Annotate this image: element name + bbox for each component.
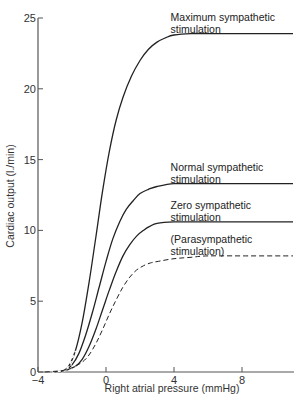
y-tick-label: 25 bbox=[24, 12, 36, 24]
curve-label-maximum-sympathetic-stimulation: stimulation bbox=[171, 23, 221, 35]
cardiac-output-chart: 0510152025−4048 Maximum sympatheticstimu… bbox=[0, 0, 304, 408]
y-tick-label: 20 bbox=[24, 83, 36, 95]
axes: 0510152025−4048 bbox=[24, 12, 294, 386]
curves bbox=[45, 33, 293, 372]
curve-label-maximum-sympathetic-stimulation: Maximum sympathetic bbox=[171, 11, 275, 23]
y-tick-label: 10 bbox=[24, 224, 36, 236]
curve-label-normal-sympathetic-stimulation: Normal sympathetic bbox=[171, 161, 264, 173]
x-tick-label: −4 bbox=[32, 374, 45, 386]
curve-label-normal-sympathetic-stimulation: stimulation bbox=[171, 173, 221, 185]
curve-labels: Maximum sympatheticstimulationNormal sym… bbox=[171, 11, 275, 257]
curve-parasympathetic-stimulation bbox=[45, 256, 293, 372]
curve-label-zero-sympathetic-stimulation: stimulation bbox=[171, 211, 221, 223]
y-tick-label: 5 bbox=[30, 295, 36, 307]
x-tick-label: 8 bbox=[239, 374, 245, 386]
curve-label-zero-sympathetic-stimulation: Zero sympathetic bbox=[171, 199, 252, 211]
curve-label-parasympathetic-stimulation: (Parasympathetic bbox=[171, 233, 253, 245]
y-axis-title: Cardiac output (l./min) bbox=[4, 144, 16, 247]
curve-label-parasympathetic-stimulation: stimulation) bbox=[171, 245, 225, 257]
x-axis-title: Right atrial pressure (mmHg) bbox=[105, 382, 240, 394]
y-tick-label: 15 bbox=[24, 154, 36, 166]
